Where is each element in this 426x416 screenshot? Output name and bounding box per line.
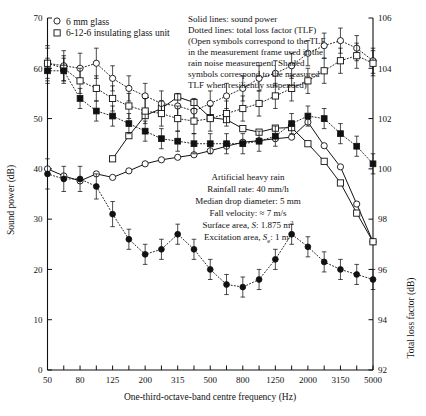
data-point-filled-square bbox=[77, 96, 83, 102]
data-point-open-square bbox=[93, 85, 99, 91]
conditions-block: Artificial heavy rain Rainfall rate: 40 … bbox=[195, 172, 300, 244]
data-point-open-square bbox=[354, 53, 360, 59]
data-point-filled-square bbox=[159, 136, 165, 142]
data-point-filled-circle bbox=[175, 231, 181, 237]
y2-tick-label: 106 bbox=[378, 13, 392, 23]
note-line-3: in the measurement frame used in the bbox=[188, 47, 323, 57]
data-point-filled-circle bbox=[224, 282, 230, 288]
data-point-filled-circle bbox=[126, 236, 132, 242]
data-point-open-square bbox=[321, 68, 327, 74]
data-point-filled-square bbox=[191, 141, 197, 147]
data-point-filled-square bbox=[289, 121, 295, 127]
x-tick-label: 2000 bbox=[299, 375, 318, 385]
condition-excitation-area: Excitation area, Se: 1 m2 bbox=[204, 231, 292, 244]
legend-label-1: 6-12-6 insulating glass unit bbox=[66, 28, 170, 38]
data-point-filled-square bbox=[175, 138, 181, 144]
data-point-filled-circle bbox=[272, 256, 278, 262]
data-point-open-square bbox=[223, 110, 229, 116]
data-point-filled-square bbox=[338, 131, 344, 137]
y2-tick-label: 96 bbox=[378, 265, 388, 275]
note-line-0: Solid lines: sound power bbox=[188, 14, 277, 24]
data-point-filled-circle bbox=[338, 267, 344, 273]
condition-line-0: Artificial heavy rain bbox=[212, 172, 285, 182]
note-line-6: TLF when resiliently suspended) bbox=[188, 80, 307, 90]
x-tick-label: 5000 bbox=[364, 375, 383, 385]
data-point-open-square bbox=[354, 210, 360, 216]
data-point-filled-square bbox=[126, 121, 132, 127]
x-axis-label: One-third-octave-band centre frequency (… bbox=[124, 392, 296, 403]
y-tick-label: 40 bbox=[34, 164, 44, 174]
y-tick-label: 10 bbox=[34, 315, 44, 325]
condition-line-2: Median drop diameter: 5 mm bbox=[195, 196, 300, 206]
data-point-open-circle bbox=[110, 174, 116, 180]
data-point-open-circle bbox=[321, 143, 327, 149]
y2-tick-label: 98 bbox=[378, 214, 388, 224]
notes-block: Solid lines: sound power Dotted lines: t… bbox=[188, 14, 326, 90]
data-point-filled-square bbox=[207, 141, 213, 147]
data-point-filled-square bbox=[305, 113, 311, 119]
x-tick-label: 500 bbox=[204, 375, 218, 385]
data-point-open-square bbox=[110, 156, 116, 162]
data-point-open-square bbox=[110, 95, 116, 101]
data-point-open-square bbox=[321, 158, 327, 164]
x-tick-label: 50 bbox=[43, 375, 53, 385]
condition-line-3: Fall velocity: ≈ 7 m/s bbox=[210, 208, 287, 218]
y2-tick-label: 102 bbox=[378, 114, 392, 124]
data-point-filled-square bbox=[272, 133, 278, 139]
data-point-open-circle bbox=[110, 75, 116, 81]
data-point-open-square bbox=[240, 126, 246, 132]
data-point-open-square bbox=[240, 105, 246, 111]
data-point-filled-circle bbox=[370, 277, 376, 283]
x-tick-label: 125 bbox=[106, 375, 120, 385]
data-point-filled-circle bbox=[45, 171, 51, 177]
x-tick-label: 1250 bbox=[266, 375, 285, 385]
data-point-open-square bbox=[272, 93, 278, 99]
data-point-open-circle bbox=[289, 134, 295, 140]
data-point-filled-circle bbox=[256, 277, 262, 283]
data-point-open-square bbox=[126, 103, 132, 109]
data-point-filled-square bbox=[370, 161, 376, 167]
data-point-filled-circle bbox=[305, 244, 311, 250]
x-tick-label: 80 bbox=[76, 375, 86, 385]
condition-surface-area: Surface area, S: 1.875 m2 bbox=[202, 219, 293, 231]
y2-tick-label: 100 bbox=[378, 164, 392, 174]
data-point-filled-square bbox=[93, 108, 99, 114]
data-point-open-square bbox=[305, 141, 311, 147]
data-point-filled-circle bbox=[61, 176, 67, 182]
data-point-open-circle bbox=[337, 38, 343, 44]
figure-rain-noise-sound-power: 0102030405060709294969810010210410650801… bbox=[0, 0, 426, 416]
legend: 6 mm glass 6-12-6 insulating glass unit bbox=[51, 14, 170, 38]
data-point-filled-circle bbox=[77, 176, 83, 182]
data-point-filled-circle bbox=[191, 246, 197, 252]
data-point-open-square bbox=[142, 108, 148, 114]
data-point-open-square bbox=[77, 78, 83, 84]
data-point-open-circle bbox=[354, 201, 360, 207]
y-tick-label: 70 bbox=[34, 13, 44, 23]
y-tick-label: 50 bbox=[34, 114, 44, 124]
data-point-filled-circle bbox=[110, 211, 116, 217]
legend-symbol-open-circle bbox=[54, 18, 60, 24]
y2-tick-label: 94 bbox=[378, 315, 388, 325]
data-point-open-square bbox=[337, 58, 343, 64]
data-point-open-square bbox=[175, 115, 181, 121]
data-point-filled-square bbox=[224, 141, 230, 147]
data-point-filled-circle bbox=[207, 267, 213, 273]
data-point-filled-square bbox=[354, 143, 360, 149]
data-point-open-square bbox=[191, 118, 197, 124]
x-tick-label: 800 bbox=[236, 375, 250, 385]
data-point-open-square bbox=[370, 239, 376, 245]
data-point-filled-square bbox=[240, 141, 246, 147]
note-line-2: (Open symbols correspond to the TLF bbox=[188, 36, 326, 46]
data-point-filled-square bbox=[142, 128, 148, 134]
y2-axis-label: Total loss factor (dB) bbox=[406, 278, 417, 359]
data-point-filled-square bbox=[256, 138, 262, 144]
data-point-filled-square bbox=[110, 113, 116, 119]
note-line-1: Dotted lines: total loss factor (TLF) bbox=[188, 25, 316, 35]
data-point-open-circle bbox=[142, 161, 148, 167]
data-point-filled-circle bbox=[240, 284, 246, 290]
data-point-filled-circle bbox=[159, 246, 165, 252]
data-point-open-square bbox=[158, 110, 164, 116]
data-point-open-square bbox=[207, 115, 213, 121]
data-point-open-circle bbox=[223, 93, 229, 99]
x-tick-label: 315 bbox=[171, 375, 185, 385]
